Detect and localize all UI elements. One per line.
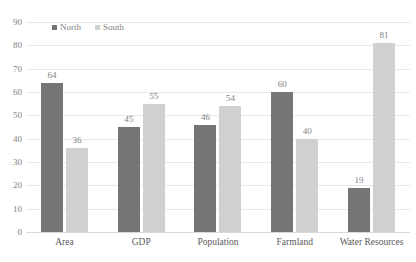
bar-value-label: 64: [47, 71, 56, 80]
legend-item[interactable]: South: [95, 23, 124, 32]
bar-rect[interactable]: [348, 188, 370, 232]
legend-label: North: [60, 23, 81, 32]
bar-north[interactable]: 64: [41, 22, 63, 232]
y-axis-tick-label: 10: [13, 204, 22, 213]
bar-value-label: 60: [278, 80, 287, 89]
x-axis-tick-label: Water Resources: [333, 236, 410, 254]
y-axis-tick-label: 20: [13, 181, 22, 190]
y-axis-tick-label: 60: [13, 88, 22, 97]
bar-rect[interactable]: [271, 92, 293, 232]
bar-north[interactable]: 60: [271, 22, 293, 232]
y-axis-tick-label: 50: [13, 111, 22, 120]
bar-north[interactable]: 19: [348, 22, 370, 232]
bar-north[interactable]: 46: [194, 22, 216, 232]
x-axis: AreaGDPPopulationFarmlandWater Resources: [26, 236, 410, 254]
x-axis-tick-label: Area: [26, 236, 103, 254]
bar-groups: 64364555465460401981: [26, 22, 410, 232]
bar-group: 4555: [103, 22, 180, 232]
legend-item[interactable]: North: [52, 23, 81, 32]
bar-rect[interactable]: [143, 104, 165, 232]
bar-value-label: 46: [201, 113, 210, 122]
x-axis-tick-label: Population: [180, 236, 257, 254]
legend-swatch-south: [95, 25, 100, 30]
bar-south[interactable]: 54: [219, 22, 241, 232]
bar-rect[interactable]: [219, 106, 241, 232]
bar-rect[interactable]: [296, 139, 318, 232]
bar-group: 6040: [256, 22, 333, 232]
bar-rect[interactable]: [41, 83, 63, 232]
y-axis-tick-label: 80: [13, 41, 22, 50]
axis-baseline: [26, 232, 410, 233]
bar-value-label: 81: [380, 31, 389, 40]
plot-area: 64364555465460401981: [26, 22, 410, 232]
bar-value-label: 45: [124, 115, 133, 124]
bar-value-label: 54: [226, 94, 235, 103]
bar-value-label: 19: [355, 176, 364, 185]
bar-north[interactable]: 45: [118, 22, 140, 232]
chart-legend: NorthSouth: [52, 23, 124, 32]
bar-south[interactable]: 81: [373, 22, 395, 232]
legend-swatch-north: [52, 25, 57, 30]
bar-rect[interactable]: [118, 127, 140, 232]
bar-south[interactable]: 40: [296, 22, 318, 232]
legend-label: South: [103, 23, 124, 32]
bar-value-label: 36: [72, 136, 81, 145]
y-axis: 9080706050403020100: [0, 22, 22, 232]
x-axis-tick-label: GDP: [103, 236, 180, 254]
bar-value-label: 40: [303, 127, 312, 136]
x-axis-tick-label: Farmland: [256, 236, 333, 254]
bar-rect[interactable]: [194, 125, 216, 232]
bar-chart: 9080706050403020100 64364555465460401981…: [0, 0, 416, 262]
bar-group: 1981: [333, 22, 410, 232]
bar-south[interactable]: 55: [143, 22, 165, 232]
bar-south[interactable]: 36: [66, 22, 88, 232]
bar-group: 4654: [180, 22, 257, 232]
bar-rect[interactable]: [373, 43, 395, 232]
y-axis-tick-label: 40: [13, 134, 22, 143]
y-axis-tick-label: 70: [13, 64, 22, 73]
y-axis-tick-label: 30: [13, 158, 22, 167]
bar-group: 6436: [26, 22, 103, 232]
y-axis-tick-label: 0: [18, 228, 23, 237]
y-axis-tick-label: 90: [13, 18, 22, 27]
bar-value-label: 55: [149, 92, 158, 101]
bar-rect[interactable]: [66, 148, 88, 232]
